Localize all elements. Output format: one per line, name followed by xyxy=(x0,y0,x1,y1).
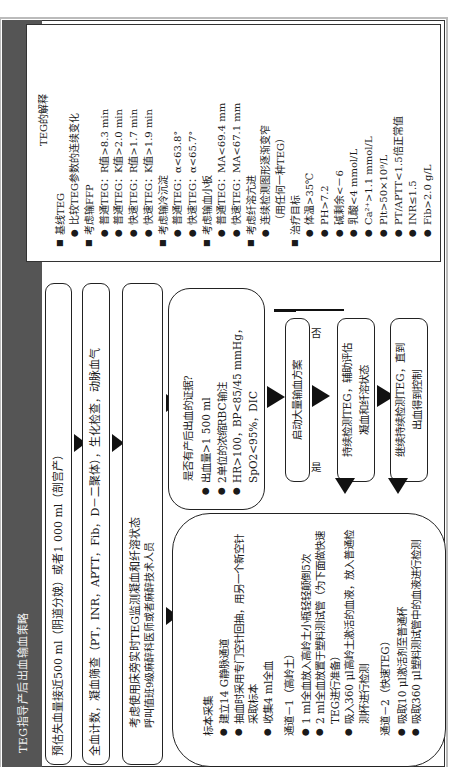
panel-item: 普通TEG：MA<69.4 mm xyxy=(215,33,230,247)
panel-item: 比较TEG参数的连续变化 xyxy=(68,33,83,247)
sample-item: 收集4 ml全血 xyxy=(261,528,275,736)
channel1-list: 1 ml全血放入高岭土小瓶轻轻颠倒5次 2 ml全血放置于塑料测试管（为下面做快… xyxy=(299,528,371,736)
panel-item: 碱剩余<－6 xyxy=(333,33,348,247)
step2-text: 全血计数，凝血筛查（PT，INR，APTT，Fib，D－二聚体），生化检查，动脉… xyxy=(88,348,104,756)
panel-item: PH>7.2 xyxy=(318,33,333,247)
panel-item: 快速TEG：R值>1.7 min xyxy=(127,33,142,247)
sample-item: 抽血时采用专门空针回抽，用另一个新空针采取标本 xyxy=(232,528,261,736)
panel-heading: 基线TEG xyxy=(54,33,69,247)
mtp-box: 启动大量输血方案 xyxy=(285,318,310,482)
channel2-list: 吸取10 μl激活剂至普通杯 吸取360 μl塑料测试管中的血液进行检测 xyxy=(395,528,424,736)
monitor-line2: 凝血和纤溶状态 xyxy=(356,365,373,435)
continue-line2: 出血得到控制 xyxy=(409,370,426,430)
connector-line xyxy=(274,309,344,311)
channel2-item: 吸取10 μl激活剂至普通杯 xyxy=(395,528,409,736)
teg-interpretation-panel: TEG的解释 基线TEG 比较TEG参数的连续变化 考虑输FFP 普通TEG：R… xyxy=(26,24,441,262)
step1-text: 预估失血量接近500 ml（阴道分娩）或者1 000 ml（剖宫产） xyxy=(51,449,67,756)
flowchart-canvas: TEG指导产后出血输血策略 预估失血量接近500 ml（阴道分娩）或者1 000… xyxy=(0,0,453,767)
channel2-item: 吸取360 μl塑料测试管中的血液进行检测 xyxy=(409,528,423,736)
panel-heading: 考虑输FFP xyxy=(83,33,98,247)
channel2-heading: 通道－2（快速TEG） xyxy=(378,528,392,736)
panel-item: 快速TEG：K值>1.9 min xyxy=(142,33,157,247)
channel1-heading: 通道－1（高岭土） xyxy=(282,528,296,736)
panel-item: 快速TEG：MA<67.1 mm xyxy=(230,33,245,247)
step3-line2: 呼叫值班9级麻醉科医师或者麻醉技术人员 xyxy=(143,284,157,728)
panel-item: 连续检测图形逐渐变窄 xyxy=(259,33,274,247)
yes-label: 是 xyxy=(311,459,321,474)
panel-note: （用任何一种TEG） xyxy=(274,33,289,247)
bleeding-evidence-box: 是否有产后出血的证据? 出血量>1 500 ml 2单位的浓缩RBC输注 HR>… xyxy=(168,288,265,510)
panel-item: INR≤1.5 xyxy=(406,33,421,247)
monitor-line1: 持续检测TEG，辅助评估 xyxy=(339,343,356,456)
panel-title: TEG的解释 xyxy=(37,33,52,247)
panel-item: 快速TEG：α<65.7° xyxy=(186,33,201,247)
panel-item: PT/APTT<1.5倍正常值 xyxy=(392,33,407,247)
sample-item: 建立14 G静脉通道 xyxy=(217,528,231,736)
step3-box: 考虑使用床旁实时TEG监测凝血和纤溶状态 呼叫值班9级麻醉科医师或者麻醉技术人员 xyxy=(122,283,163,765)
mtp-text: 启动大量输血方案 xyxy=(289,360,306,440)
panel-item: Fib>2.0 g/L xyxy=(421,33,436,247)
arrow-down-icon xyxy=(312,385,330,407)
sample-heading: 标本采集 xyxy=(201,528,215,736)
panel-heading: 考虑输冷沉淀 xyxy=(157,33,172,247)
panel-item: 普通TEG：K值>2.0 min xyxy=(112,33,127,247)
panel-item: Plt>50×10⁹/L xyxy=(377,33,392,247)
question-item: 出血量>1 500 ml xyxy=(199,299,215,495)
panel-heading: 治疗目标 xyxy=(289,33,304,247)
question-item: 2单位的浓缩RBC输注 xyxy=(215,299,231,495)
panel-heading: 考虑输血小板 xyxy=(201,33,216,247)
channel1-item: 吸入360 μl高岭土激活的血液，放入普通检测杯进行检测 xyxy=(342,528,371,736)
arrow-down-icon xyxy=(335,478,355,494)
no-label: 否 xyxy=(311,325,321,340)
arrow-down-icon xyxy=(388,478,408,494)
step1-box: 预估失血量接近500 ml（阴道分娩）或者1 000 ml（剖宫产） xyxy=(45,283,72,765)
panel-item: 普通TEG：α<63.8° xyxy=(171,33,186,247)
panel-item: 体温>35℃ xyxy=(303,33,318,247)
continue-teg-box: 继续持续检测TEG，直到 出血得到控制 xyxy=(390,318,428,482)
question-heading: 是否有产后出血的证据? xyxy=(181,299,197,495)
panel-heading: 考虑纤溶亢进 xyxy=(245,33,260,247)
panel-item: Ca²⁺>1.1 mmol/L xyxy=(362,33,377,247)
continue-line1: 继续持续检测TEG，直到 xyxy=(392,343,409,456)
question-item: HR>100，BP<85/45 mmHg，SpO2<95%，DIC xyxy=(230,299,262,495)
step3-line1: 考虑使用床旁实时TEG监测凝血和纤溶状态 xyxy=(128,284,143,728)
arrow-down-icon xyxy=(267,386,285,408)
step2-box: 全血计数，凝血筛查（PT，INR，APTT，Fib，D－二聚体），生化检查，动脉… xyxy=(82,283,110,765)
channel1-item: 1 ml全血放入高岭土小瓶轻轻颠倒5次 xyxy=(299,528,313,736)
channel1-item: 2 ml全血放置于塑料测试管（为下面做快速TEG进行准备） xyxy=(313,528,342,736)
monitor-teg-box: 持续检测TEG，辅助评估 凝血和纤溶状态 xyxy=(337,318,375,482)
panel-item: 普通TEG：R值>8.3 min xyxy=(98,33,113,247)
sample-list: 建立14 G静脉通道 抽血时采用专门空针回抽，用另一个新空针采取标本 收集4 m… xyxy=(217,528,275,736)
panel-list: 基线TEG 比较TEG参数的连续变化 考虑输FFP 普通TEG：R值>8.3 m… xyxy=(54,33,436,247)
sample-collection-box: 标本采集 建立14 G静脉通道 抽血时采用专门空针回抽，用另一个新空针采取标本 … xyxy=(172,513,446,767)
panel-item: 乳酸<4 mmol/L xyxy=(347,33,362,247)
question-list: 出血量>1 500 ml 2单位的浓缩RBC输注 HR>100，BP<85/45… xyxy=(199,299,262,495)
